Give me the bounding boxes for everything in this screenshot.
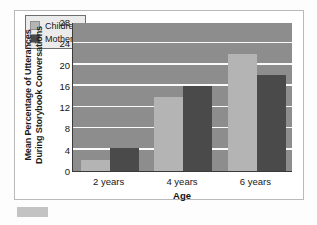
bar-mothers-4-years: [183, 86, 212, 171]
bar-mothers-6-years: [257, 75, 286, 171]
x-tick-label: 2 years: [93, 176, 124, 187]
x-tick-label: 6 years: [240, 176, 271, 187]
y-tick-label: 8: [50, 124, 70, 134]
y-tick-label: 24: [50, 39, 70, 49]
y-tick-label: 28: [50, 18, 70, 28]
bar-children-4-years: [154, 97, 183, 172]
corner-artifact: [17, 207, 48, 217]
y-axis-tick-labels: 0481216202428: [50, 18, 70, 178]
plot-inner: [73, 23, 292, 171]
y-axis-title-line-2: During Storybook Conversations: [34, 26, 45, 164]
y-tick-label: 16: [50, 82, 70, 92]
bar-group: [220, 23, 292, 171]
bar-group: [146, 23, 219, 171]
bar-mothers-2-years: [110, 148, 139, 171]
x-axis-title: Age: [72, 190, 292, 201]
bar-group: [73, 23, 146, 171]
bar-children-2-years: [81, 160, 110, 171]
y-axis-title-line-1: Mean Percentage of Utterances: [23, 26, 34, 164]
x-tick-label: 4 years: [166, 176, 197, 187]
y-tick-label: 20: [50, 61, 70, 71]
y-tick-label: 0: [50, 167, 70, 177]
plot-area: [72, 23, 292, 172]
y-tick-label: 12: [50, 103, 70, 113]
x-axis-tick-labels: 2 years4 years6 years: [72, 176, 292, 190]
y-tick-label: 4: [50, 146, 70, 156]
y-axis-title: Mean Percentage of Utterances During Sto…: [17, 14, 51, 176]
bar-children-6-years: [228, 54, 257, 171]
